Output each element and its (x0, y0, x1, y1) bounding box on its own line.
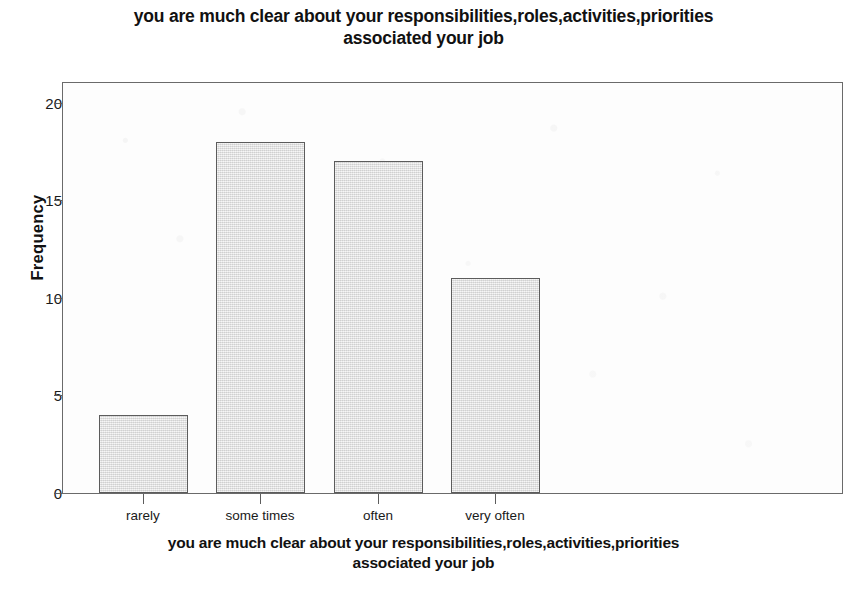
chart-title-line-2: associated your job (0, 28, 847, 50)
bar-often (334, 161, 423, 493)
x-tick-mark-very-often (495, 494, 496, 504)
x-axis-title: you are much clear about your responsibi… (0, 533, 847, 573)
x-tick-mark-rarely (143, 494, 144, 504)
x-axis-title-line-2: associated your job (0, 553, 847, 573)
y-tick-mark-5 (54, 395, 62, 396)
plot-area (62, 82, 843, 494)
x-tick-label-very-often: very often (420, 508, 570, 523)
bar-rarely (99, 415, 188, 493)
y-tick-mark-20 (54, 103, 62, 104)
y-tick-mark-15 (54, 200, 62, 201)
y-axis-tick-marks (54, 0, 62, 596)
x-axis-title-line-1: you are much clear about your responsibi… (0, 533, 847, 553)
x-tick-mark-some-times (260, 494, 261, 504)
chart-title-line-1: you are much clear about your responsibi… (0, 6, 847, 28)
y-tick-mark-10 (54, 298, 62, 299)
x-axis-tick-marks (0, 494, 847, 506)
bar-very-often (451, 278, 540, 493)
chart-title: you are much clear about your responsibi… (0, 6, 847, 50)
x-tick-mark-often (378, 494, 379, 504)
bar-some-times (216, 142, 305, 493)
